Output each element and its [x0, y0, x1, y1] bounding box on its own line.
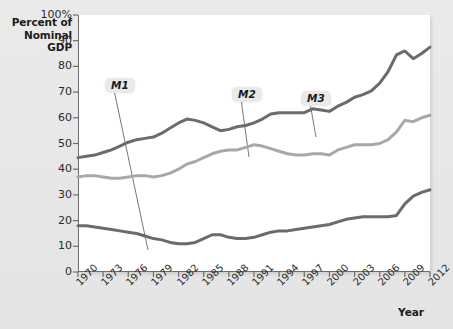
figure-container: Percent of Nominal GDP Year 100%90807060…: [0, 0, 453, 329]
leader-line: [114, 90, 148, 250]
series-lines: [78, 47, 430, 244]
y-axis-tick-marks: [73, 15, 78, 272]
x-axis-tick-marks: [78, 272, 430, 277]
chart-svg: [0, 0, 453, 329]
series-label-m2: M2: [232, 87, 262, 102]
series-line-m3: [78, 47, 430, 158]
series-label-m1: M1: [105, 78, 135, 93]
series-line-m1: [78, 190, 430, 244]
series-label-m3: M3: [301, 91, 331, 106]
